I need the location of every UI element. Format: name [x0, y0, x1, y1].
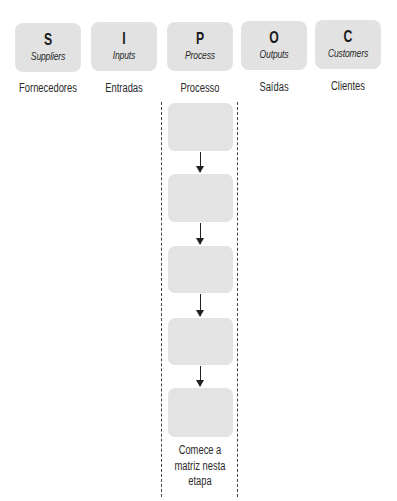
label-processo: Processo [169, 81, 231, 95]
arrow-down-icon [200, 223, 201, 244]
label-clientes: Clientes [317, 79, 379, 93]
process-column-left-border [161, 102, 162, 497]
arrow-down-icon [200, 152, 201, 172]
header-english-label: Inputs [98, 49, 149, 62]
start-here-note: Comece a matriz nesta etapa [169, 443, 231, 490]
process-step-3 [168, 246, 233, 293]
header-letter: C [324, 27, 372, 46]
start-note-line-3: etapa [169, 474, 231, 490]
header-letter: I [100, 29, 148, 48]
label-fornecedores: Fornecedores [17, 81, 79, 95]
start-note-line-2: matriz nesta [169, 459, 231, 475]
arrow-down-icon [200, 366, 201, 386]
label-saidas: Saídas [243, 80, 305, 94]
header-english-label: Customers [322, 47, 373, 60]
label-entradas: Entradas [93, 81, 155, 95]
header-letter: P [176, 29, 224, 48]
header-english-label: Process [174, 49, 225, 62]
header-box-process: P Process [167, 22, 233, 71]
header-letter: O [250, 28, 298, 47]
process-column-right-border [237, 102, 238, 497]
header-letter: S [24, 30, 72, 49]
process-step-4 [168, 318, 233, 365]
process-step-1 [168, 103, 233, 151]
header-box-outputs: O Outputs [241, 21, 307, 70]
process-step-2 [168, 174, 233, 222]
start-note-line-1: Comece a [169, 443, 231, 459]
arrow-down-icon [200, 294, 201, 316]
process-step-5 [168, 388, 233, 437]
header-english-label: Outputs [248, 48, 299, 61]
header-english-label: Suppliers [22, 50, 73, 63]
header-box-customers: C Customers [315, 20, 381, 69]
header-box-inputs: I Inputs [91, 22, 157, 71]
header-box-suppliers: S Suppliers [15, 23, 81, 72]
